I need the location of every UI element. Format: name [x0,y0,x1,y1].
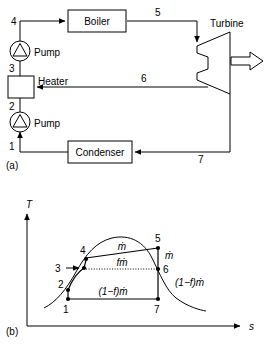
state-point-4 [84,257,88,261]
state-point-7 [156,297,160,301]
state-label-2-schematic: 2 [9,101,15,112]
work-output-arrow [231,52,263,70]
x-axis-label: s [249,321,254,332]
flow-label-total-upper: ṁ [118,241,126,252]
flow-label-remainder-bottom: (1−f)ṁ [98,286,127,297]
state-point-2 [66,288,70,292]
schematic-svg: Boiler 4 Pump 3 Heater 6 2 Pump [0,0,272,180]
state-label-2-ts: 2 [58,279,64,290]
state-point-5 [156,246,160,250]
flow-label-turbine-exit: ṁ [165,250,173,261]
state-label-3-schematic: 3 [9,63,15,74]
ts-diagram-svg: T s [0,180,272,344]
state-label-6-ts: 6 [163,264,169,275]
state-label-3-ts: 3 [55,263,61,274]
state-label-4-schematic: 4 [11,16,17,27]
condenser-label: Condenser [76,147,126,158]
pump-lower-label: Pump [34,118,61,129]
flow-label-extracted: fṁ [116,257,127,268]
state-label-7-ts: 7 [154,304,160,315]
flow-label-remainder-right: (1−f)ṁ [175,277,204,288]
state-label-5-ts: 5 [155,233,161,244]
state-label-5-schematic: 5 [155,7,161,18]
turbine-body [197,32,230,94]
state-label-7-schematic: 7 [198,154,204,165]
figure-a-caption: (a) [6,160,18,171]
turbine-label: Turbine [210,18,244,29]
figure-container: Boiler 4 Pump 3 Heater 6 2 Pump [0,0,272,344]
state-label-6-schematic: 6 [141,73,147,84]
state-point-1 [66,297,70,301]
state-point-3 [82,266,86,270]
pump-upper-label: Pump [34,47,61,58]
ts-diagram: T s [0,180,272,344]
state-point-6 [156,267,160,271]
heater-box [8,76,34,98]
heater-label: Heater [38,76,69,87]
state-label-1-schematic: 1 [9,141,15,152]
y-axis-label: T [26,199,33,210]
state-label-1-ts: 1 [63,304,69,315]
schematic-diagram: Boiler 4 Pump 3 Heater 6 2 Pump [0,0,272,180]
boiler-label: Boiler [84,16,110,27]
state-label-4-ts: 4 [80,245,86,256]
figure-b-caption: (b) [6,326,18,337]
